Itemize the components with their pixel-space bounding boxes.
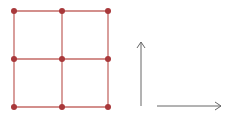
grid-node [11,56,17,62]
grid-node [59,56,65,62]
grid-node [105,56,111,62]
grid-node [59,8,65,14]
grid-node [11,8,17,14]
grid-node [59,104,65,110]
grid-node [105,8,111,14]
grid-diagram [0,0,231,122]
axis-arrows [137,42,221,110]
grid-node [105,104,111,110]
grid-node [11,104,17,110]
